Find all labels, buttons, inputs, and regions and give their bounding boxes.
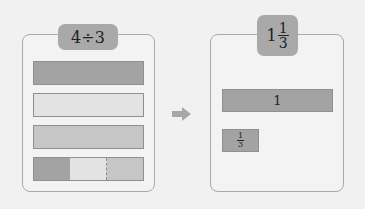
mixed-number-denominator: 3 [279, 36, 288, 50]
whole-bar-2 [33, 93, 144, 117]
bar-third-denominator: 3 [238, 141, 243, 149]
division-expression: 4÷3 [71, 28, 105, 47]
split-bar [33, 157, 144, 181]
left-title-badge: 4÷3 [58, 24, 118, 50]
bar-one: 1 [222, 89, 333, 112]
mixed-number-fraction: 1 3 [278, 21, 289, 50]
split-segment-3 [107, 158, 143, 180]
mixed-number-numerator: 1 [278, 21, 289, 36]
right-arrow-icon [172, 107, 192, 121]
right-title-badge: 1 1 3 [257, 15, 298, 56]
split-segment-2 [70, 158, 107, 180]
right-panel [210, 34, 344, 192]
bar-one-third-label: 1 3 [237, 132, 244, 149]
mixed-number-whole: 1 [266, 26, 276, 45]
bar-one-label: 1 [273, 93, 281, 108]
split-segment-1 [34, 158, 70, 180]
whole-bar-1 [33, 61, 144, 85]
bar-one-third: 1 3 [222, 129, 259, 152]
whole-bar-3 [33, 125, 144, 149]
